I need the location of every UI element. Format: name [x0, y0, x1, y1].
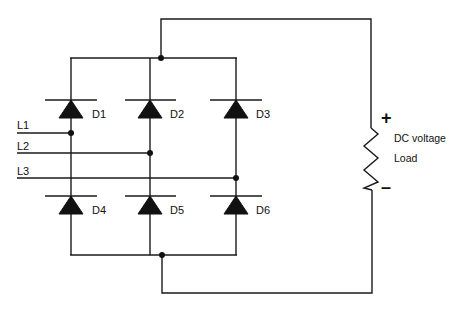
- diode-label-d5: D5: [170, 204, 184, 216]
- junction-dot-l2: [147, 150, 153, 156]
- junction-dot-l1: [68, 130, 74, 136]
- input-label-l2: L2: [17, 140, 29, 152]
- d2-diode-icon: [138, 100, 162, 118]
- d1-diode-icon: [59, 100, 83, 118]
- input-label-l1: L1: [17, 119, 29, 131]
- load-resistor: [364, 128, 378, 190]
- d6-diode-icon: [224, 196, 248, 214]
- junction-dot-bottom: [159, 252, 165, 258]
- junction-dot-l3: [233, 175, 239, 181]
- negative-terminal-label: –: [381, 177, 391, 197]
- rectifier-diagram: L1 L2 L3 D1 D2 D3 D4 D5 D6 + – DC voltag…: [0, 0, 466, 309]
- d5-diode-icon: [138, 196, 162, 214]
- input-label-l3: L3: [17, 165, 29, 177]
- diode-label-d4: D4: [92, 204, 106, 216]
- diode-label-d1: D1: [92, 108, 106, 120]
- d4-diode-icon: [59, 196, 83, 214]
- d3-diode-icon: [224, 100, 248, 118]
- positive-terminal-label: +: [381, 108, 392, 128]
- diode-label-d2: D2: [170, 108, 184, 120]
- diode-label-d3: D3: [256, 108, 270, 120]
- diode-label-d6: D6: [256, 204, 270, 216]
- junction-dot-top: [158, 55, 164, 61]
- load-label-line1: DC voltage: [394, 132, 446, 144]
- load-label-line2: Load: [394, 152, 418, 164]
